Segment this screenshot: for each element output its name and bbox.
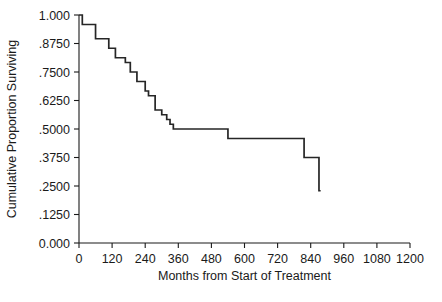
y-tick-label: 1.000 bbox=[39, 9, 70, 23]
x-axis-title: Months from Start of Treatment bbox=[158, 269, 332, 283]
x-tick-label: 360 bbox=[168, 252, 189, 266]
y-axis-title: Cumulative Proportion Surviving bbox=[5, 40, 19, 219]
y-tick-label: .1250 bbox=[39, 208, 70, 222]
x-tick-label: 840 bbox=[300, 252, 321, 266]
survival-chart: 0.000.1250.2500.3750.5000.6250.7500.8750… bbox=[0, 0, 442, 302]
y-tick-label: .7500 bbox=[39, 66, 70, 80]
x-tick-label: 1080 bbox=[363, 252, 391, 266]
x-tick-label: 600 bbox=[234, 252, 255, 266]
y-tick-label: .5000 bbox=[39, 123, 70, 137]
y-tick-label: .8750 bbox=[39, 37, 70, 51]
x-tick-label: 1200 bbox=[396, 252, 424, 266]
x-tick-label: 240 bbox=[135, 252, 156, 266]
survival-step-curve bbox=[79, 15, 321, 191]
y-tick-label: .6250 bbox=[39, 94, 70, 108]
x-tick-label: 0 bbox=[76, 252, 83, 266]
x-tick-label: 720 bbox=[267, 252, 288, 266]
y-tick-label: .3750 bbox=[39, 151, 70, 165]
y-tick-label: .2500 bbox=[39, 180, 70, 194]
x-tick-label: 960 bbox=[333, 252, 354, 266]
y-tick-label: 0.000 bbox=[39, 237, 70, 251]
x-tick-label: 120 bbox=[102, 252, 123, 266]
chart-canvas: 0.000.1250.2500.3750.5000.6250.7500.8750… bbox=[0, 0, 442, 302]
x-tick-label: 480 bbox=[201, 252, 222, 266]
